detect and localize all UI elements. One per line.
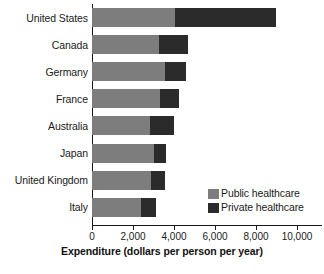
x-axis-tick-label: 8,000 bbox=[243, 231, 268, 242]
legend-item-private: Private healthcare bbox=[208, 201, 304, 214]
x-axis-tick bbox=[256, 226, 257, 230]
category-label-germany: Germany bbox=[0, 67, 88, 78]
x-axis-tick bbox=[174, 226, 175, 230]
bar-segment-public bbox=[92, 8, 175, 27]
bar-segment-public bbox=[92, 89, 160, 108]
x-axis-tick-label: 4,000 bbox=[161, 231, 186, 242]
x-axis-title: Expenditure (dollars per person per year… bbox=[0, 245, 324, 257]
bar-segment-public bbox=[92, 35, 159, 54]
x-axis-tick-label: 6,000 bbox=[202, 231, 227, 242]
category-label-australia: Australia bbox=[0, 121, 88, 132]
bar-segment-private bbox=[154, 144, 167, 163]
x-axis-tick bbox=[215, 226, 216, 230]
legend-label-public: Public healthcare bbox=[221, 188, 300, 199]
bar-segment-private bbox=[175, 8, 276, 27]
legend-label-private: Private healthcare bbox=[221, 202, 304, 213]
x-axis-tick-label: 10,000 bbox=[282, 231, 313, 242]
legend-swatch-public bbox=[208, 189, 219, 199]
category-label-france: France bbox=[0, 94, 88, 105]
category-label-canada: Canada bbox=[0, 40, 88, 51]
x-axis-tick bbox=[92, 226, 93, 230]
bar-segment-private bbox=[150, 116, 174, 135]
x-axis-tick-label: 0 bbox=[89, 231, 95, 242]
cropped-caption bbox=[6, 265, 186, 274]
legend-swatch-private bbox=[208, 203, 219, 213]
healthcare-expenditure-chart: United StatesCanadaGermanyFranceAustrali… bbox=[0, 0, 324, 274]
category-label-united-kingdom: United Kingdom bbox=[0, 175, 88, 186]
legend-item-public: Public healthcare bbox=[208, 187, 304, 200]
category-label-united-states: United States bbox=[0, 13, 88, 24]
bar-segment-private bbox=[151, 171, 165, 190]
category-label-italy: Italy bbox=[0, 202, 88, 213]
bar-segment-private bbox=[165, 62, 187, 81]
bar-segment-public bbox=[92, 116, 150, 135]
x-axis-tick bbox=[297, 226, 298, 230]
x-axis-line bbox=[92, 225, 322, 226]
bar-segment-public bbox=[92, 198, 141, 217]
x-axis-tick-label: 2,000 bbox=[120, 231, 145, 242]
category-label-japan: Japan bbox=[0, 148, 88, 159]
bar-segment-public bbox=[92, 144, 154, 163]
bar-segment-private bbox=[159, 35, 189, 54]
chart-legend: Public healthcare Private healthcare bbox=[208, 187, 304, 215]
bar-segment-public bbox=[92, 171, 151, 190]
bar-segment-private bbox=[141, 198, 156, 217]
bar-segment-public bbox=[92, 62, 165, 81]
bar-segment-private bbox=[160, 89, 179, 108]
category-axis-labels: United StatesCanadaGermanyFranceAustrali… bbox=[0, 4, 88, 226]
x-axis-tick bbox=[133, 226, 134, 230]
